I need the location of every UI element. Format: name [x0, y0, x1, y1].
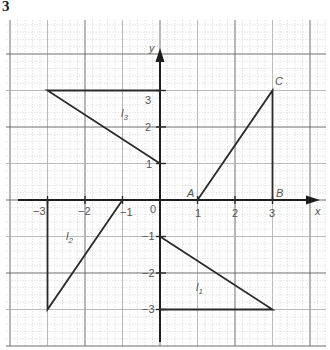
x-tick-label: −3 [33, 205, 46, 217]
vertex-label-a: A [186, 187, 194, 199]
y-axis-arrow-icon [156, 48, 165, 62]
x-axis-label: x [314, 205, 321, 217]
y-tick-label: 3 [145, 94, 151, 106]
x-tick-label: −1 [120, 206, 133, 218]
vertex-label-c: C [275, 75, 283, 87]
x-tick-label: −2 [78, 205, 91, 217]
origin-label: 0 [150, 203, 156, 215]
y-tick-label: −2 [142, 267, 155, 279]
x-tick-label: 3 [269, 207, 275, 219]
triangle-l1-label: l1 [196, 281, 203, 296]
y-tick-label: 2 [145, 121, 151, 133]
y-tick-label: 1 [146, 158, 152, 170]
y-tick-label: −3 [142, 303, 155, 315]
x-axis-arrow-icon [306, 196, 320, 205]
y-tick-label: −1 [142, 230, 155, 242]
y-axis-label: y [148, 42, 156, 54]
x-tick-label: 1 [195, 207, 201, 219]
graph-paper-grid [6, 20, 326, 346]
coordinate-grid-diagram: y x 0 −3 −2 −1 1 2 3 3 2 1 −1 −2 −3 A B … [0, 0, 330, 350]
x-tick-label: 2 [232, 207, 238, 219]
vertex-label-b: B [276, 187, 283, 199]
triangle-l2-label: l2 [66, 230, 73, 245]
